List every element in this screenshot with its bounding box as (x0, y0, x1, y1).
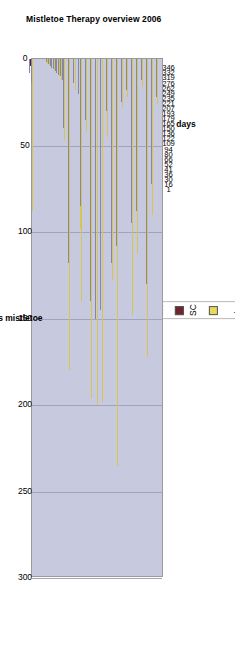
y-axis-tick-label: 50 (20, 140, 29, 150)
bar-iti (131, 59, 132, 223)
bar-iti (136, 59, 137, 211)
bar-iti (95, 59, 96, 319)
bar-total (69, 59, 70, 370)
bar-total (86, 59, 87, 132)
bar-total (122, 59, 123, 107)
bar-total (127, 59, 128, 97)
x-axis-tick-label: 346 (162, 63, 175, 72)
y-axis-tick-label: 0 (23, 53, 28, 63)
bar-total (81, 59, 82, 301)
y-axis-label: mgs mistletoe (0, 313, 235, 323)
bar-iti (90, 59, 91, 301)
bar-total (64, 59, 65, 140)
bar-iti (111, 59, 112, 263)
bar-iti (106, 59, 107, 111)
bar-total (91, 59, 92, 398)
y-axis-tick-label: 300 (18, 572, 32, 582)
bar-iti (121, 59, 122, 102)
bar-total (112, 59, 113, 280)
bar-total (75, 59, 76, 90)
y-axis-tick-label: 250 (18, 486, 32, 496)
bar-total (107, 59, 108, 137)
bar-iti (68, 59, 69, 263)
bar-total (132, 59, 133, 315)
bar-iti (151, 59, 152, 184)
gridline (32, 578, 162, 579)
bar-iti (141, 59, 142, 80)
bar-iti (80, 59, 81, 206)
bar-total (152, 59, 153, 215)
page-title: Mistletoe Therapy overview 2006 (20, 14, 220, 24)
bar-iti (73, 59, 74, 83)
x-axis-ticks: 1163036415266809410912213615016517919320… (164, 58, 177, 190)
bar-total (102, 59, 103, 402)
bar-total (97, 59, 98, 405)
bar-iti (31, 59, 32, 83)
bar-iti (156, 59, 157, 97)
bar-iti (116, 59, 117, 246)
bar-iti (126, 59, 127, 90)
y-axis-tick-label: 200 (18, 399, 32, 409)
bar-total (137, 59, 138, 253)
bar-iti (101, 59, 102, 310)
bar-total (157, 59, 158, 104)
bar-iti (63, 59, 64, 128)
bar-total (142, 59, 143, 87)
bar-total (117, 59, 118, 466)
chart-figure: Mistletoe Therapy overview 2006 ITISCtot… (0, 0, 235, 648)
bar-iti (85, 59, 86, 120)
y-axis-tick-label: 100 (18, 226, 32, 236)
bar-iti (146, 59, 147, 284)
bar-total (32, 59, 33, 211)
